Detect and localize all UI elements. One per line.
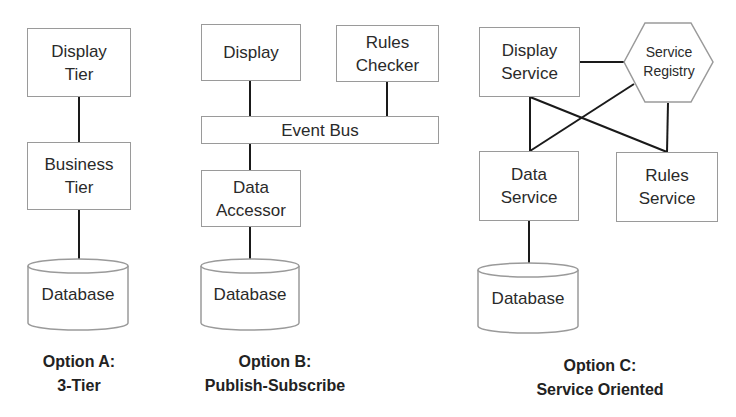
display-label: Display (223, 41, 279, 64)
edge-display-service-rules-service (530, 97, 667, 152)
display-tier-label: Display Tier (51, 40, 107, 86)
rules-service-box: Rules Service (616, 152, 718, 222)
database-b-label: Database (200, 278, 300, 312)
business-tier-box: Business Tier (27, 142, 131, 210)
caption-option-b: Option B: Publish-Subscribe (175, 350, 375, 398)
data-accessor-box: Data Accessor (201, 170, 301, 227)
caption-option-c: Option C: Service Oriented (500, 354, 700, 402)
database-c-label: Database (478, 282, 578, 316)
display-tier-box: Display Tier (27, 28, 131, 97)
rules-checker-box: Rules Checker (336, 25, 439, 82)
rules-service-label: Rules Service (639, 164, 696, 210)
data-service-box: Data Service (479, 151, 579, 221)
rules-checker-label: Rules Checker (356, 31, 419, 77)
business-tier-label: Business Tier (45, 153, 114, 199)
data-service-label: Data Service (501, 163, 558, 209)
service-registry-label: Service Registry (630, 38, 708, 86)
caption-option-a: Option A: 3-Tier (4, 350, 154, 398)
data-accessor-label: Data Accessor (216, 176, 286, 222)
display-service-label: Display Service (501, 39, 558, 85)
display-box: Display (201, 24, 301, 81)
display-service-box: Display Service (479, 27, 580, 97)
database-a-label: Database (28, 278, 128, 312)
event-bus-box: Event Bus (201, 116, 439, 144)
event-bus-label: Event Bus (281, 119, 359, 142)
edge-service-registry-rules-service (667, 103, 668, 152)
